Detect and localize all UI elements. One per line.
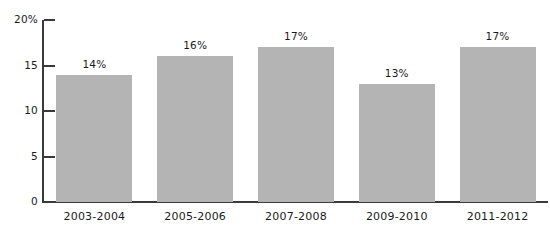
- bar: [157, 56, 233, 202]
- y-axis-tick: [44, 156, 55, 158]
- y-axis-tick-labels: 05101520%: [0, 0, 38, 233]
- bar: [56, 75, 132, 202]
- bar: [359, 84, 435, 202]
- bar-value-label: 17%: [458, 31, 538, 42]
- plot-area: 05101520% 14%16%17%13%17% 2003-20042005-…: [0, 0, 550, 233]
- x-axis-category-label: 2005-2006: [145, 211, 246, 222]
- y-axis-tick-label: 5: [4, 151, 38, 162]
- bar-chart: 05101520% 14%16%17%13%17% 2003-20042005-…: [0, 0, 550, 233]
- y-axis-tick-label: 20%: [4, 14, 38, 25]
- x-axis-category-label: 2011-2012: [447, 211, 548, 222]
- bar-value-label: 13%: [357, 68, 437, 79]
- bar: [460, 47, 536, 202]
- y-axis-tick: [44, 19, 55, 21]
- bar: [258, 47, 334, 202]
- y-axis-tick-label: 0: [4, 196, 38, 207]
- x-axis-category-label: 2003-2004: [44, 211, 145, 222]
- bar-value-label: 16%: [155, 40, 235, 51]
- y-axis-tick-label: 10: [4, 105, 38, 116]
- x-axis-category-label: 2009-2010: [346, 211, 447, 222]
- y-axis-tick: [44, 65, 55, 67]
- bar-value-label: 17%: [256, 31, 336, 42]
- bar-value-label: 14%: [54, 59, 134, 70]
- y-axis-tick: [44, 110, 55, 112]
- y-axis-tick-label: 15: [4, 60, 38, 71]
- x-axis-category-label: 2007-2008: [246, 211, 347, 222]
- y-axis-tick: [44, 201, 55, 203]
